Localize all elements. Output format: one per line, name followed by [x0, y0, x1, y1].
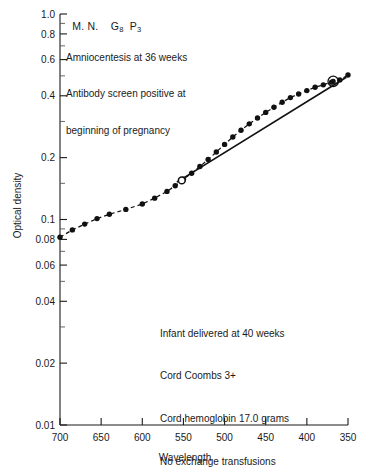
open-circle-marker [178, 177, 185, 184]
special-markers [178, 76, 338, 184]
note-bottom-line: Infant delivered at 40 weeks [160, 327, 289, 341]
data-point [123, 207, 128, 212]
y-tick-label: 0.1 [41, 214, 55, 225]
y-tick-label: 0.04 [36, 296, 56, 307]
x-tick-label: 400 [299, 432, 316, 443]
data-point [94, 216, 99, 221]
y-tick-label: 0.02 [36, 358, 56, 369]
note-top-line: Amniocentesis at 36 weeks [66, 52, 187, 64]
circled-point-center [331, 79, 336, 84]
data-point [222, 142, 227, 147]
clinical-note-top: Amniocentesis at 36 weeks Antibody scree… [66, 27, 187, 150]
data-point [321, 82, 326, 87]
data-point [205, 157, 210, 162]
y-tick-label: 0.8 [41, 29, 55, 40]
data-point [197, 164, 202, 169]
data-point [214, 149, 219, 154]
data-point [288, 95, 293, 100]
data-point [312, 85, 317, 90]
data-point [296, 91, 301, 96]
y-tick-label: 0.08 [36, 234, 56, 245]
y-tick-label: 0.6 [41, 54, 55, 65]
data-point [152, 195, 157, 200]
clinical-note-bottom: Infant delivered at 40 weeks Cord Coombs… [160, 298, 289, 475]
data-point [82, 221, 87, 226]
data-point [140, 201, 145, 206]
y-axis-title: Optical density [12, 151, 23, 261]
data-point [107, 212, 112, 217]
x-tick-label: 600 [134, 432, 151, 443]
note-top-line: Antibody screen positive at [66, 88, 187, 100]
note-bottom-line: Cord hemoglobin 17.0 grams [160, 412, 289, 426]
data-point [173, 183, 178, 188]
data-point [189, 170, 194, 175]
data-point [230, 134, 235, 139]
data-point [345, 72, 350, 77]
x-tick-label: 700 [52, 432, 69, 443]
y-tick-label: 1.0 [41, 9, 55, 20]
y-tick-label: 0.06 [36, 260, 56, 271]
note-top-line: beginning of pregnancy [66, 125, 187, 137]
x-tick-label: 350 [340, 432, 357, 443]
data-point [238, 127, 243, 132]
data-point [70, 227, 75, 232]
data-point [263, 110, 268, 115]
data-point [255, 115, 260, 120]
data-point [164, 189, 169, 194]
data-point [304, 88, 309, 93]
data-point [57, 235, 62, 240]
y-tick-label: 0.4 [41, 90, 55, 101]
y-tick-labels: 1.00.80.60.40.20.10.080.060.040.020.01 [36, 9, 56, 431]
data-point [279, 100, 284, 105]
y-tick-label: 0.01 [36, 420, 56, 431]
x-tick-label: 650 [93, 432, 110, 443]
x-axis-title: Wavelength [0, 452, 370, 463]
data-point [271, 104, 276, 109]
y-tick-label: 0.2 [41, 152, 55, 163]
data-point [247, 121, 252, 126]
note-bottom-line: Cord Coombs 3+ [160, 369, 289, 383]
